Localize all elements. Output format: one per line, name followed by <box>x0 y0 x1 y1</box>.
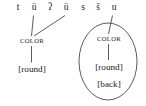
segment-2: ü <box>29 2 39 13</box>
color-node-left: COLOR <box>6 37 58 45</box>
association-line-u3-to-color-right <box>109 16 113 35</box>
color-node-right: COLOR <box>83 35 135 43</box>
segment-4: ü <box>61 2 71 13</box>
segmental-tier: t ü ʔ ü s š u <box>0 0 146 16</box>
feature-back-right: [back] <box>81 79 137 90</box>
segment-7: u <box>109 2 119 13</box>
feature-round-left: [round] <box>4 64 60 75</box>
feature-round-right: [round] <box>81 62 137 73</box>
segment-3: ʔ <box>45 2 55 13</box>
association-line-u1-to-color-left <box>32 16 34 37</box>
segment-1: t <box>13 2 23 13</box>
figure-canvas: ………………… t ü ʔ ü s š u COLOR [round] COLO… <box>0 0 146 106</box>
segment-5: s <box>78 2 88 13</box>
association-line-u2-to-color-left <box>34 16 65 37</box>
segment-6: š <box>93 2 103 13</box>
